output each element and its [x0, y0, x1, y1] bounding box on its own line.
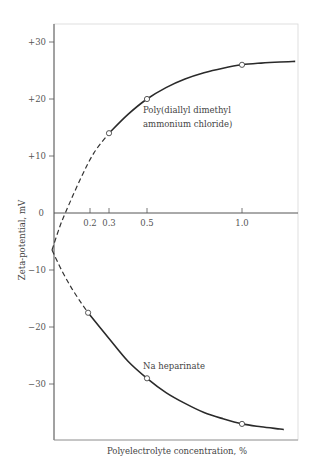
extrapolated-curve-heparinate [52, 250, 88, 313]
y-tick-label: −10 [28, 265, 46, 275]
series-label-polydadmac-line1: Poly(diallyl dimethyl [143, 105, 231, 115]
y-tick-label: +30 [28, 37, 46, 47]
y-axis-ticks: +30+20+100−10−20−30 [28, 37, 54, 389]
data-point-heparinate [239, 421, 244, 426]
x-axis-ticks: 0.20.30.51.0 [83, 208, 249, 228]
data-point-polydadmac [144, 96, 149, 101]
extrapolated-curve-polydadmac [52, 133, 109, 250]
y-tick-label: −30 [28, 379, 46, 389]
data-markers [86, 62, 245, 426]
x-tick-label: 0.3 [102, 218, 116, 228]
plot-frame [54, 24, 298, 440]
x-tick-label: 0.2 [83, 218, 97, 228]
data-point-polydadmac [106, 131, 111, 136]
data-curves [52, 61, 295, 429]
y-tick-label: −20 [28, 322, 46, 332]
x-tick-label: 0.5 [140, 218, 154, 228]
y-tick-label: +20 [28, 94, 46, 104]
series-label-heparinate: Na heparinate [143, 361, 205, 371]
data-point-polydadmac [239, 62, 244, 67]
measured-curve-heparinate [88, 313, 284, 430]
x-axis-title: Polyelectrolyte concentration, % [107, 446, 247, 456]
y-tick-label: +10 [28, 151, 46, 161]
data-point-heparinate [86, 310, 91, 315]
x-tick-label: 1.0 [235, 218, 249, 228]
y-tick-label: 0 [39, 208, 44, 218]
y-axis-title: Zeta-potential, mV [17, 199, 27, 280]
series-label-polydadmac-line2: ammonium chloride) [143, 119, 232, 129]
zeta-potential-chart: +30+20+100−10−20−30 0.20.30.51.0 Poly(di… [0, 0, 314, 471]
data-point-heparinate [144, 376, 149, 381]
